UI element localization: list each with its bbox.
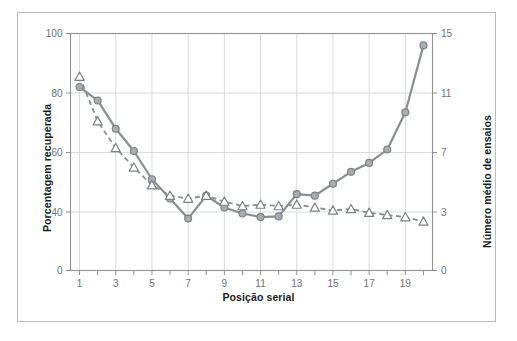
x-axis-tick-label: 13 [291, 278, 303, 289]
y-axis-right-tick-label: 3 [441, 207, 447, 218]
y-axis-right-title: Número médio de ensaios [481, 115, 493, 248]
x-axis-tick-label: 9 [222, 278, 228, 289]
data-point-porcentagem [384, 146, 391, 153]
chart-figure: 13579111315171904060801000371115 Porcent… [0, 0, 517, 341]
x-axis-tick-label: 1 [77, 278, 83, 289]
y-axis-left-tick-label: 80 [51, 88, 63, 99]
data-point-porcentagem [420, 42, 427, 49]
x-axis-title: Posição serial [0, 291, 517, 303]
y-axis-left-tick-label: 100 [46, 28, 63, 39]
x-axis-tick-label: 19 [400, 278, 412, 289]
y-axis-right-tick-label: 7 [441, 147, 447, 158]
y-axis-right-tick-label: 11 [441, 88, 452, 99]
data-point-porcentagem [130, 148, 137, 155]
data-point-porcentagem [311, 192, 318, 199]
data-point-porcentagem [275, 213, 282, 220]
y-axis-right-tick-label: 0 [441, 265, 447, 276]
x-axis-tick-label: 3 [113, 278, 119, 289]
data-point-porcentagem [329, 180, 336, 187]
data-point-porcentagem [402, 109, 409, 116]
y-axis-left-tick-label: 0 [57, 265, 63, 276]
x-axis-tick-label: 7 [185, 278, 191, 289]
y-axis-right-tick-label: 15 [441, 28, 453, 39]
data-point-porcentagem [112, 125, 119, 132]
x-axis-tick-label: 15 [327, 278, 339, 289]
x-axis-tick-label: 5 [149, 278, 155, 289]
y-axis-left-title: Porcentagem recuperada [41, 104, 53, 232]
data-point-porcentagem [185, 215, 192, 222]
line-chart: 13579111315171904060801000371115 [0, 0, 517, 341]
data-point-porcentagem [293, 191, 300, 198]
data-point-porcentagem [239, 210, 246, 217]
data-point-porcentagem [348, 168, 355, 175]
data-point-porcentagem [257, 214, 264, 221]
data-point-porcentagem [366, 159, 373, 166]
x-axis-tick-label: 17 [364, 278, 376, 289]
data-point-porcentagem [76, 84, 83, 91]
y-axis-left-tick-label: 60 [51, 147, 63, 158]
data-point-porcentagem [94, 97, 101, 104]
x-axis-tick-label: 11 [255, 278, 266, 289]
y-axis-left-tick-label: 40 [51, 207, 63, 218]
